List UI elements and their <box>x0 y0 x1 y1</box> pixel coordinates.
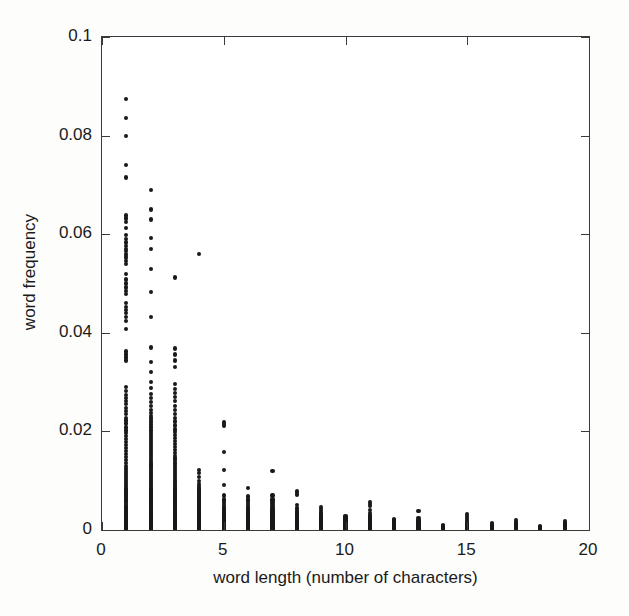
x-axis-tick <box>224 522 225 530</box>
scatter-point <box>149 315 153 319</box>
scatter-point <box>416 509 420 513</box>
scatter-point <box>124 226 128 230</box>
scatter-point <box>319 527 323 530</box>
y-axis-tick <box>581 530 589 531</box>
scatter-point <box>124 175 128 179</box>
scatter-point <box>270 527 274 530</box>
scatter-point <box>173 399 177 403</box>
scatter-point <box>149 207 153 211</box>
scatter-point <box>149 360 153 364</box>
scatter-point <box>149 217 153 221</box>
y-axis-tick <box>102 37 110 38</box>
scatter-point <box>149 370 153 374</box>
scatter-point <box>124 327 128 331</box>
scatter-point <box>124 116 128 120</box>
scatter-point <box>149 527 153 530</box>
x-axis-tick <box>467 37 468 45</box>
scatter-point <box>173 382 177 386</box>
x-axis-tick <box>102 37 103 45</box>
y-axis-tick <box>581 431 589 432</box>
scatter-points-layer <box>102 37 589 530</box>
y-axis-tick <box>102 530 110 531</box>
scatter-point <box>441 527 445 530</box>
y-axis-tick <box>581 37 589 38</box>
scatter-point <box>222 483 226 487</box>
x-axis-tick-label: 15 <box>457 540 476 560</box>
y-axis-tick <box>102 333 110 334</box>
scatter-point <box>222 468 226 472</box>
scatter-point <box>124 319 128 323</box>
scatter-point <box>246 527 250 530</box>
scatter-point <box>149 345 153 349</box>
scatter-point <box>173 358 177 362</box>
scatter-point <box>197 252 201 256</box>
scatter-point <box>124 163 128 167</box>
y-axis-tick <box>581 333 589 334</box>
x-axis-tick-label: 20 <box>579 540 598 560</box>
scatter-point <box>295 527 299 530</box>
scatter-point <box>368 527 372 530</box>
scatter-point <box>124 527 128 530</box>
x-axis-tick <box>346 522 347 530</box>
x-axis-tick <box>467 522 468 530</box>
x-axis-tick <box>589 522 590 530</box>
scatter-point <box>563 527 567 530</box>
x-axis-tick-label: 0 <box>96 540 105 560</box>
y-axis-title: word frequency <box>20 142 40 402</box>
scatter-point <box>173 346 177 350</box>
y-axis-tick-label: 0.06 <box>59 224 92 241</box>
scatter-point <box>149 386 153 390</box>
scatter-point <box>490 527 494 530</box>
y-axis-tick-label: 0.04 <box>59 323 92 340</box>
scatter-point <box>124 97 128 101</box>
scatter-point <box>149 247 153 251</box>
scatter-point <box>124 134 128 138</box>
scatter-point <box>149 290 153 294</box>
x-axis-tick <box>102 522 103 530</box>
y-axis-tick <box>581 234 589 235</box>
scatter-point <box>173 275 177 279</box>
scatter-point <box>124 220 128 224</box>
plot-area <box>101 36 590 531</box>
figure-scatter-word-length-frequency: 00.020.040.060.080.1 05101520 word lengt… <box>0 0 629 616</box>
y-axis-tick-label: 0.1 <box>68 27 92 44</box>
scatter-point <box>392 527 396 530</box>
y-axis-tick-label: 0.02 <box>59 421 92 438</box>
scatter-point <box>173 365 177 369</box>
x-axis-tick-labels: 05101520 <box>101 540 590 564</box>
scatter-point <box>270 469 274 473</box>
scatter-point <box>514 527 518 530</box>
y-axis-tick <box>581 136 589 137</box>
y-axis-tick <box>102 234 110 235</box>
scatter-point <box>149 188 153 192</box>
x-axis-tick <box>589 37 590 45</box>
scatter-point <box>173 352 177 356</box>
y-axis-tick <box>102 136 110 137</box>
scatter-point <box>222 423 226 427</box>
scatter-point <box>124 358 128 362</box>
x-axis-tick <box>346 37 347 45</box>
y-axis-tick-label: 0.08 <box>59 126 92 143</box>
x-axis-tick-label: 10 <box>335 540 354 560</box>
x-axis-tick <box>224 37 225 45</box>
scatter-point <box>124 272 128 276</box>
scatter-point <box>295 492 299 496</box>
scatter-point <box>173 527 177 530</box>
scatter-point <box>149 236 153 240</box>
scatter-point <box>222 450 226 454</box>
x-axis-tick-label: 5 <box>218 540 227 560</box>
scatter-point <box>149 380 153 384</box>
scatter-point <box>124 292 128 296</box>
scatter-point <box>124 262 128 266</box>
scatter-point <box>197 527 201 530</box>
scatter-point <box>538 527 542 530</box>
y-axis-tick-label: 0 <box>83 520 92 537</box>
scatter-point <box>246 486 250 490</box>
x-axis-title: word length (number of characters) <box>101 568 590 588</box>
scatter-point <box>416 527 420 530</box>
y-axis-tick <box>102 431 110 432</box>
scatter-point <box>149 267 153 271</box>
